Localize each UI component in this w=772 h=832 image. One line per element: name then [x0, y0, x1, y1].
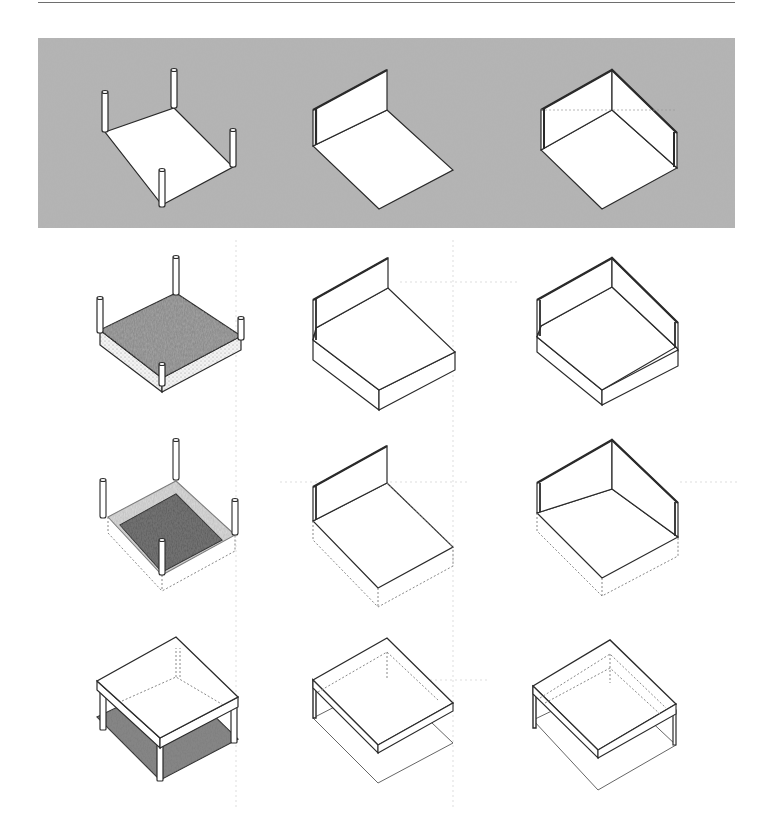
cell-wall-raised-platform	[313, 258, 455, 410]
cell-wall-depressed-plane	[313, 446, 453, 607]
cell-columns-raised-platform	[97, 256, 244, 393]
platform-top-textured	[100, 293, 241, 378]
overhead-roof-plane	[313, 638, 453, 745]
cell-two-walls-depressed-plane	[537, 440, 678, 596]
cell-wall-overhead-plane	[313, 638, 453, 783]
cell-two-walls-overhead-plane	[533, 640, 676, 790]
cell-columns-depressed-plane	[100, 439, 238, 592]
cell-two-walls-raised-platform	[537, 258, 678, 405]
cell-columns-overhead-plane	[97, 637, 238, 781]
overhead-roof-plane	[533, 640, 676, 750]
isometric-diagram	[0, 0, 772, 832]
